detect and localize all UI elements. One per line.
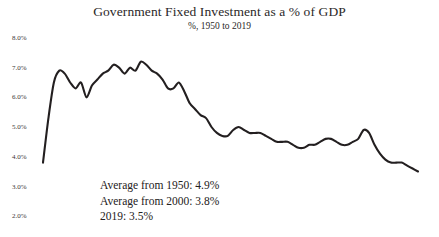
series-line-government-fixed-investment (43, 62, 418, 172)
annotation-value-2019: 2019: 3.5% (100, 209, 350, 225)
annotation-block: Average from 1950: 4.9% Average from 200… (100, 178, 350, 225)
annotation-average-from-1950: Average from 1950: 4.9% (100, 178, 350, 194)
chart-figure: Government Fixed Investment as a % of GD… (0, 0, 439, 237)
annotation-average-from-2000: Average from 2000: 3.8% (100, 194, 350, 210)
